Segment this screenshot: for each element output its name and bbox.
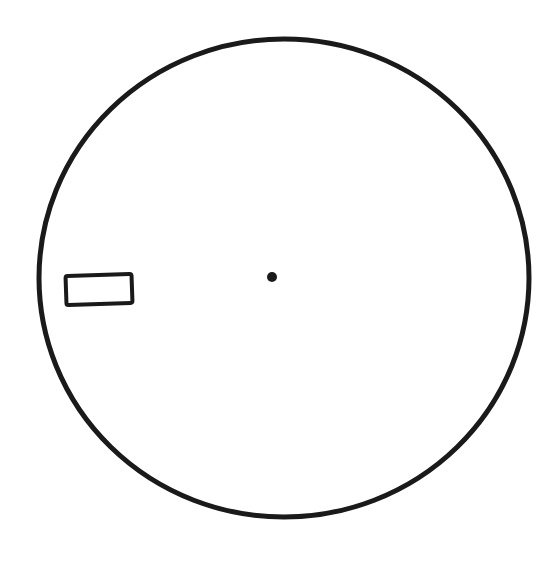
rectangle-marker (66, 274, 133, 305)
outer-circle (39, 39, 529, 517)
diagram-canvas (0, 0, 557, 561)
center-dot (267, 272, 277, 282)
